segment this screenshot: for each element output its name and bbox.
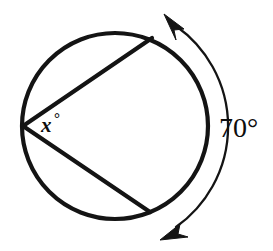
inscribed-angle-degree-symbol: ° xyxy=(54,110,60,126)
geometry-canvas: x ° 70° xyxy=(0,0,273,251)
arc-arrowhead-bottom-icon xyxy=(160,224,188,240)
inscribed-angle-x-label: x xyxy=(40,113,52,137)
chord-lower-line xyxy=(23,126,150,212)
geometry-figure: x ° 70° xyxy=(0,0,273,251)
intercepted-arc-measure-label: 70° xyxy=(219,112,258,143)
arc-arrowhead-top-icon xyxy=(164,14,184,40)
